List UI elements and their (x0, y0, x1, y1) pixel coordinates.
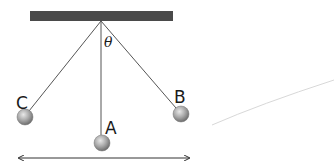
support-bar (30, 11, 173, 21)
label-a: A (105, 118, 117, 138)
pendulum-diagram: θ C A B (0, 0, 334, 166)
stray-line (212, 80, 334, 125)
bob-b (173, 106, 189, 122)
string-c (29, 21, 101, 111)
label-c: C (16, 93, 28, 113)
angle-label: θ (104, 34, 113, 50)
label-b: B (174, 87, 186, 107)
